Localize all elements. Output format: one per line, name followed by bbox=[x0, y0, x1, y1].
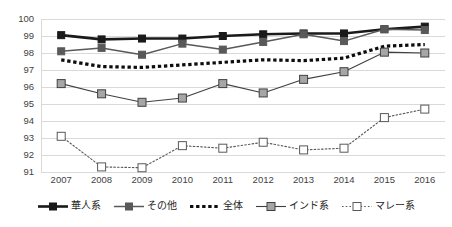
legend-item-2[interactable]: その他 bbox=[114, 201, 177, 212]
legend-item-label: 華人系 bbox=[71, 201, 101, 211]
data-point-marker bbox=[178, 94, 186, 102]
legend-item-label: インド系 bbox=[289, 201, 329, 211]
y-axis-tick-label: 99 bbox=[23, 31, 34, 41]
data-point-marker bbox=[58, 48, 65, 55]
legend-swatch-icon bbox=[342, 201, 372, 212]
data-point-marker bbox=[380, 114, 388, 122]
legend-swatch-icon bbox=[38, 201, 68, 212]
data-point-marker bbox=[421, 49, 429, 57]
series-layer bbox=[41, 19, 445, 172]
data-point-marker bbox=[340, 68, 348, 76]
y-axis-tick-label: 95 bbox=[23, 99, 34, 109]
series-3 bbox=[61, 45, 425, 68]
data-point-marker bbox=[300, 146, 308, 154]
data-point-marker bbox=[139, 35, 146, 42]
data-point-marker bbox=[380, 48, 388, 56]
legend-swatch-icon bbox=[256, 201, 286, 212]
data-point-marker bbox=[98, 163, 106, 171]
series-line bbox=[61, 45, 425, 68]
data-point-marker bbox=[219, 144, 227, 152]
y-axis-tick-label: 98 bbox=[23, 48, 34, 58]
series-line bbox=[61, 109, 425, 168]
x-axis-tick-label: 2014 bbox=[333, 175, 354, 185]
data-point-marker bbox=[58, 32, 65, 39]
legend-item-5[interactable]: マレー系 bbox=[342, 201, 415, 212]
legend-swatch-icon bbox=[114, 201, 144, 212]
data-point-marker bbox=[340, 144, 348, 152]
y-axis-tick-label: 100 bbox=[18, 14, 34, 24]
data-point-marker bbox=[421, 105, 429, 113]
series-5 bbox=[57, 105, 429, 172]
legend-item-label: その他 bbox=[147, 201, 177, 211]
data-point-marker bbox=[341, 30, 348, 37]
x-axis-tick-label: 2010 bbox=[172, 175, 193, 185]
data-point-marker bbox=[178, 142, 186, 150]
series-4 bbox=[57, 48, 429, 106]
data-point-marker bbox=[139, 51, 146, 58]
data-point-marker bbox=[98, 90, 106, 98]
legend-item-1[interactable]: 華人系 bbox=[38, 201, 101, 212]
data-point-marker bbox=[219, 33, 226, 40]
legend-swatch-icon bbox=[190, 201, 220, 212]
data-point-marker bbox=[98, 36, 105, 43]
data-point-marker bbox=[260, 38, 267, 45]
gridline bbox=[41, 172, 445, 173]
y-axis-tick-label: 92 bbox=[23, 150, 34, 160]
legend-item-3[interactable]: 全体 bbox=[190, 201, 243, 212]
x-axis-tick-label: 2012 bbox=[253, 175, 274, 185]
y-axis-tick-label: 91 bbox=[23, 167, 34, 177]
data-point-marker bbox=[259, 138, 267, 146]
data-point-marker bbox=[341, 38, 348, 45]
data-point-marker bbox=[57, 132, 65, 140]
x-axis-tick-label: 2008 bbox=[91, 175, 112, 185]
x-axis-tick-label: 2009 bbox=[131, 175, 152, 185]
data-point-marker bbox=[260, 31, 267, 38]
x-axis-tick-label: 2015 bbox=[374, 175, 395, 185]
data-point-marker bbox=[421, 27, 428, 34]
y-axis: 100999897969594939291 bbox=[0, 19, 38, 172]
x-axis-tick-label: 2007 bbox=[51, 175, 72, 185]
x-axis-tick-label: 2016 bbox=[414, 175, 435, 185]
y-axis-tick-label: 96 bbox=[23, 82, 34, 92]
plot-area bbox=[41, 19, 445, 172]
x-axis-tick-label: 2013 bbox=[293, 175, 314, 185]
x-axis: 2007200820092010201120122013201420152016 bbox=[41, 175, 445, 191]
y-axis-tick-label: 94 bbox=[23, 116, 34, 126]
x-axis-tick-label: 2011 bbox=[213, 175, 233, 185]
data-point-marker bbox=[219, 46, 226, 53]
data-point-marker bbox=[381, 26, 388, 33]
data-point-marker bbox=[98, 44, 105, 51]
data-point-marker bbox=[259, 89, 267, 97]
data-point-marker bbox=[300, 31, 307, 38]
data-point-marker bbox=[138, 98, 146, 106]
data-point-marker bbox=[57, 80, 65, 88]
legend-item-label: マレー系 bbox=[375, 201, 415, 211]
chart-legend: 華人系その他全体インド系マレー系 bbox=[0, 196, 452, 216]
data-point-marker bbox=[179, 40, 186, 47]
line-chart: 100999897969594939291 200720082009201020… bbox=[0, 0, 452, 227]
data-point-marker bbox=[300, 75, 308, 83]
y-axis-tick-label: 97 bbox=[23, 65, 34, 75]
data-point-marker bbox=[138, 164, 146, 172]
legend-item-4[interactable]: インド系 bbox=[256, 201, 329, 212]
legend-item-label: 全体 bbox=[223, 201, 243, 211]
data-point-marker bbox=[219, 80, 227, 88]
y-axis-tick-label: 93 bbox=[23, 133, 34, 143]
